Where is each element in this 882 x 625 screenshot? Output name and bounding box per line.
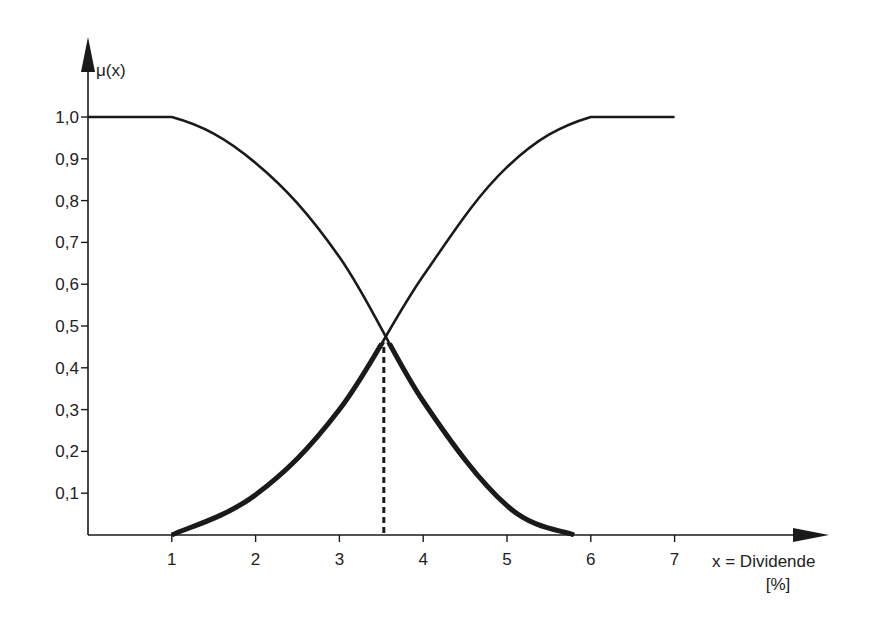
x-tick-label: 5 — [502, 550, 511, 569]
membership-chart: 0,10,20,30,40,50,60,70,80,91,0 1234567 μ… — [0, 0, 882, 625]
series-line-increasing-membership — [172, 117, 675, 535]
x-tick-label: 4 — [418, 550, 427, 569]
x-tick-label: 7 — [670, 550, 679, 569]
y-tick-label: 0,3 — [55, 401, 79, 420]
x-axis-unit: [%] — [766, 575, 791, 594]
y-tick-label: 0,2 — [55, 442, 79, 461]
y-axis-arrow-icon — [81, 37, 95, 72]
series-highlight-decreasing-membership — [88, 117, 574, 535]
x-axis-arrow-icon — [793, 528, 829, 542]
x-axis-title: x = Dividende — [712, 552, 815, 571]
series-highlight-increasing-membership — [172, 117, 675, 535]
series-layer — [88, 117, 675, 535]
series-line-decreasing-membership — [88, 117, 574, 535]
y-tick-label: 0,5 — [55, 317, 79, 336]
axes: 0,10,20,30,40,50,60,70,80,91,0 1234567 μ… — [55, 37, 829, 594]
x-tick-label: 1 — [167, 550, 176, 569]
x-tick-label: 2 — [251, 550, 260, 569]
y-tick-label: 0,6 — [55, 275, 79, 294]
x-tick-label: 3 — [335, 550, 344, 569]
y-tick-label: 0,9 — [55, 150, 79, 169]
y-tick-label: 0,4 — [55, 359, 79, 378]
x-ticks: 1234567 — [167, 535, 679, 569]
y-tick-label: 0,1 — [55, 484, 79, 503]
y-tick-label: 0,7 — [55, 233, 79, 252]
x-tick-label: 6 — [586, 550, 595, 569]
y-tick-label: 0,8 — [55, 192, 79, 211]
y-axis-title: μ(x) — [96, 61, 126, 80]
y-ticks: 0,10,20,30,40,50,60,70,80,91,0 — [55, 108, 88, 503]
y-tick-label: 1,0 — [55, 108, 79, 127]
